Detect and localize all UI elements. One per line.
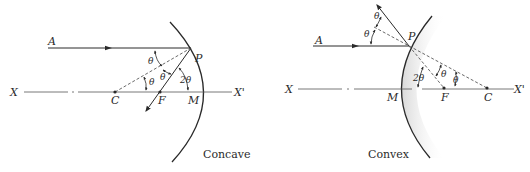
convex-point-F — [442, 86, 445, 89]
convex-panel: A P X X' M F C θ θ 2θ θ θ Convex — [284, 5, 525, 161]
concave-label-M: M — [187, 94, 200, 107]
convex-point-C — [485, 86, 488, 89]
concave-panel: A P X X' C F M θ θ θ 2θ Concave — [9, 22, 251, 162]
convex-incident-arrow-icon — [352, 44, 359, 48]
convex-angle-theta2: θ — [364, 29, 370, 39]
convex-label-C: C — [484, 91, 493, 104]
concave-incident-arrow-icon — [105, 46, 112, 50]
convex-label-X-prime: X' — [513, 83, 525, 96]
mirror-reflection-diagram: A P X X' C F M θ θ θ 2θ Concave — [0, 0, 530, 172]
convex-angle-theta1: θ — [374, 11, 380, 21]
concave-angle-theta1: θ — [148, 56, 154, 66]
convex-angle-theta3: θ — [441, 69, 447, 79]
concave-label-C: C — [111, 94, 120, 107]
concave-label-P: P — [194, 52, 203, 65]
convex-angle-arc-theta2 — [371, 30, 375, 44]
concave-angle-arc-theta3 — [144, 77, 146, 90]
convex-angle-2theta: 2θ — [412, 73, 425, 83]
concave-angle-theta2: θ — [160, 72, 166, 82]
convex-label-P: P — [407, 30, 416, 43]
convex-label-A: A — [314, 34, 323, 47]
concave-angle-arc-theta1 — [155, 51, 162, 66]
concave-label-X-prime: X' — [233, 86, 245, 99]
convex-label-M: M — [386, 91, 399, 104]
concave-angle-theta3: θ — [149, 77, 155, 87]
concave-label-X: X — [9, 86, 19, 99]
convex-caption: Convex — [368, 148, 410, 161]
concave-label-F: F — [157, 94, 166, 107]
convex-reflected-ray — [377, 5, 409, 46]
convex-label-F: F — [440, 91, 449, 104]
concave-angle-2theta: 2θ — [179, 75, 192, 85]
convex-angle-theta4: θ — [453, 75, 459, 85]
concave-caption: Concave — [203, 148, 251, 161]
convex-label-X: X — [284, 83, 294, 96]
concave-label-A: A — [47, 35, 56, 48]
